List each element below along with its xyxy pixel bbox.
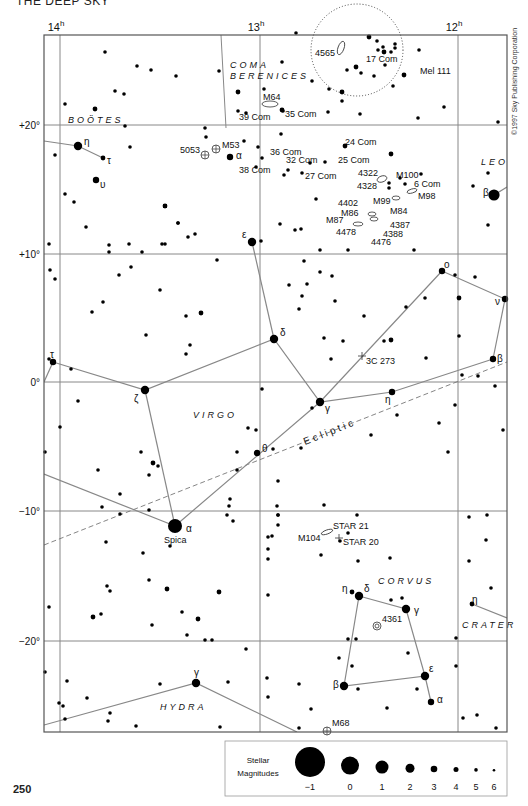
star [248,238,256,246]
constellation-name: BOÖTES [68,115,124,125]
star [389,152,394,157]
star-greek-label: α [437,694,443,705]
star [322,336,326,340]
legend-title: Stellar [247,756,270,765]
star [270,335,278,343]
star [129,265,133,269]
star [244,647,248,651]
line-virgo-zeta-spica [145,390,175,526]
star [140,250,144,254]
star [76,399,80,403]
galaxy-symbol [392,196,400,200]
star-greek-label: α [186,523,192,534]
legend-star [474,768,478,772]
star [322,503,326,507]
star [47,242,51,246]
boundary-line [221,35,226,128]
copyright-notice: ©1997 Sky Publishing Corporation [511,135,521,145]
dso-label: Mel 111 [420,66,451,76]
star [376,48,380,52]
dso-label: M68 [332,718,350,728]
dso-label: 25 Com [338,155,370,165]
star [369,433,373,437]
star [486,171,490,175]
star [91,615,96,620]
ra-label: 14h [48,19,65,33]
star [460,373,464,377]
star [228,497,232,501]
dso-label: 32 Com [286,155,318,165]
star [118,492,122,496]
star [265,676,269,680]
star [350,664,354,668]
star [406,651,410,655]
star [260,156,264,160]
star [346,637,350,641]
dso-label: 5053 [180,145,200,155]
star [47,357,51,361]
star [475,713,479,717]
star [300,171,304,175]
dso-label: M99 [373,196,391,206]
star-greek-label: γ [325,403,330,414]
star-greek-label: β [497,353,503,364]
star [278,222,282,226]
star [242,139,246,143]
star [391,84,395,88]
star [354,65,359,70]
star [327,87,331,91]
legend-title: Magnitudes [237,769,278,778]
star [323,160,327,164]
star [105,584,109,588]
star [281,109,285,113]
star [387,186,391,190]
star [163,204,167,208]
star [346,248,350,252]
star-greek-label: η [84,136,90,147]
star [382,339,386,343]
star [338,539,342,543]
star [141,551,145,555]
star [123,124,127,128]
star [174,74,178,78]
star [176,221,180,225]
star [428,699,434,705]
star [254,428,258,432]
star [330,274,334,278]
dso-label: 4361 [382,614,402,624]
ecliptic-path [44,362,507,545]
planetary-nebula-symbol [373,622,381,630]
star [188,343,192,347]
star [260,387,264,391]
star [299,446,303,450]
star [259,239,263,243]
star [398,176,402,180]
dso-label: STAR 21 [333,521,369,531]
dso-label: M87 [326,215,344,225]
star [286,168,290,172]
star [362,314,366,318]
star [235,468,239,472]
star [389,50,393,54]
star [355,592,363,600]
star [227,154,233,160]
star [254,450,260,456]
star [485,513,489,517]
star-greek-label: ν [495,296,500,307]
star [106,719,110,723]
star [326,110,330,114]
dec-label: +10° [19,249,40,260]
star [165,587,170,592]
star [139,450,143,454]
star [118,512,122,516]
star [184,352,188,356]
star [383,63,387,67]
constellation-name: HYDRA [160,702,207,712]
star [244,111,248,115]
star [100,505,104,509]
legend-star [295,747,325,777]
star [437,421,441,425]
star [215,258,219,262]
star [337,656,341,660]
legend-magnitude-label: 5 [473,782,478,792]
